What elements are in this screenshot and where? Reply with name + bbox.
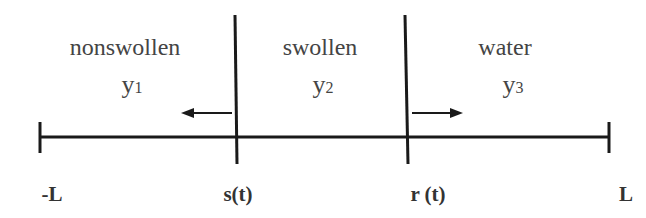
arrow-left-icon (181, 108, 232, 118)
region-label-nonswollen: nonswollen (70, 34, 181, 61)
region-label-swollen: swollen (283, 34, 358, 61)
point-label-r-t: r (t) (410, 182, 445, 207)
variable-y1: y1 (122, 70, 143, 100)
point-label-s-t: s(t) (223, 182, 252, 207)
domain-diagram (0, 0, 646, 218)
interface-r-line (405, 15, 408, 164)
variable-y2: y2 (313, 70, 334, 100)
variable-y3: y3 (503, 70, 524, 100)
arrow-right-icon (412, 108, 463, 118)
point-label-minus-L: -L (42, 182, 63, 207)
interface-s-line (235, 15, 237, 164)
region-label-water: water (478, 34, 531, 61)
point-label-L: L (619, 182, 633, 207)
